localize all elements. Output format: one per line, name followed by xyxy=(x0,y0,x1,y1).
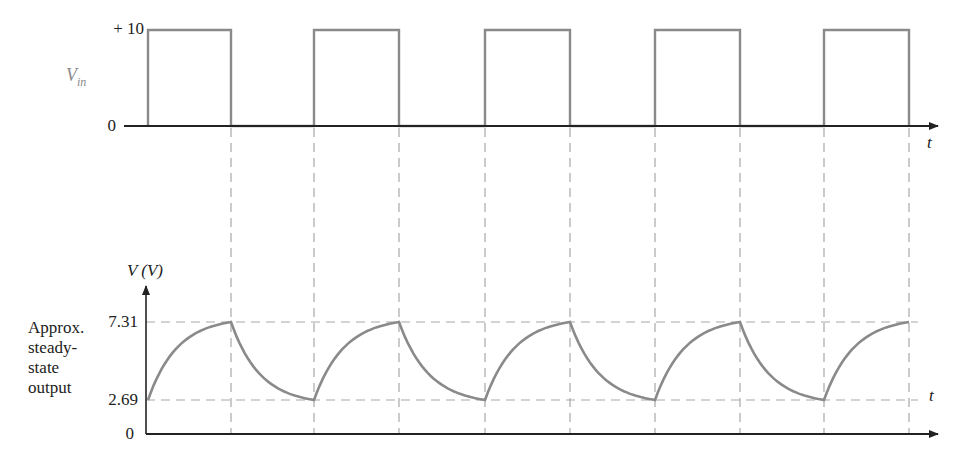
output-exponential-wave xyxy=(148,322,909,400)
waveform-figure: + 10 Vin 0 t V (V) 7.31 2.69 0 Approx. s… xyxy=(0,0,957,464)
bottom-ytick-269: 2.69 xyxy=(84,391,138,408)
steady-state-annotation: Approx. steady- state output xyxy=(28,318,84,398)
vout-trace xyxy=(148,322,909,400)
axes xyxy=(124,126,938,434)
bottom-ytick-731: 7.31 xyxy=(84,313,138,330)
top-y-label: Vin xyxy=(66,66,86,88)
top-ytick-10: + 10 xyxy=(96,20,144,37)
bottom-ytick-0: 0 xyxy=(110,425,134,442)
top-y-label-main: V xyxy=(66,65,77,85)
dashed-guide-lines xyxy=(146,128,918,434)
bottom-x-label: t xyxy=(929,387,934,404)
bottom-y-label-text: V (V) xyxy=(127,261,163,280)
top-x-label: t xyxy=(927,134,932,151)
input-square-wave xyxy=(148,30,909,126)
top-y-label-sub: in xyxy=(77,75,86,89)
vin-trace xyxy=(148,30,909,126)
top-ytick-0: 0 xyxy=(100,117,116,134)
bottom-y-label: V (V) xyxy=(127,262,163,279)
waveform-plots xyxy=(0,0,957,464)
